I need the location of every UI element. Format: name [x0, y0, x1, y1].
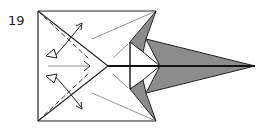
fold-unfold-arrow-top: [46, 23, 82, 58]
origami-diagram: [0, 0, 264, 129]
fold-unfold-arrow-bottom: [46, 74, 82, 109]
